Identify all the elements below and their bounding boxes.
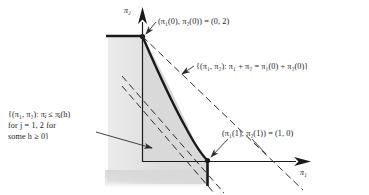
figure-drawing	[0, 0, 369, 195]
feasible-region-shading	[105, 36, 209, 188]
budget-line-label: {(π₁, π₂): π₁ + π₂ = π₁(0) + π₂(0)}	[196, 61, 308, 72]
vertex-dot-right	[205, 158, 210, 163]
feasible-region-label-line3: some h ≥ 0}	[8, 131, 70, 142]
figure-container: (π₁(0), π₂(0)) = (0, 2) {(π₁, π₂): π₁ + …	[0, 0, 369, 195]
leader-budget-line	[182, 66, 194, 74]
x-axis-arrowhead	[294, 157, 311, 166]
y-axis-arrowhead	[138, 7, 147, 24]
leader-vertex-right-a	[211, 139, 228, 157]
feasible-region-label-line2: for j = 1, 2 for	[8, 120, 70, 131]
vertex-top-label: (π₁(0), π₂(0)) = (0, 2)	[158, 16, 229, 27]
feasible-region-label-line1: {(π₁, π₂): πⱼ ≤ πⱼ(h)	[8, 109, 70, 120]
x-axis-label: π₁	[300, 168, 307, 177]
vertex-dot-top	[140, 34, 145, 39]
feasible-region-label: {(π₁, π₂): πⱼ ≤ πⱼ(h) for j = 1, 2 for s…	[8, 109, 70, 142]
leader-vertex-top	[146, 22, 156, 34]
y-axis-label: π₂	[124, 6, 131, 15]
vertex-right-label: (π₁(1), π₂(1)) = (1, 0)	[222, 128, 293, 139]
leader-vertex-right-b	[252, 139, 266, 154]
